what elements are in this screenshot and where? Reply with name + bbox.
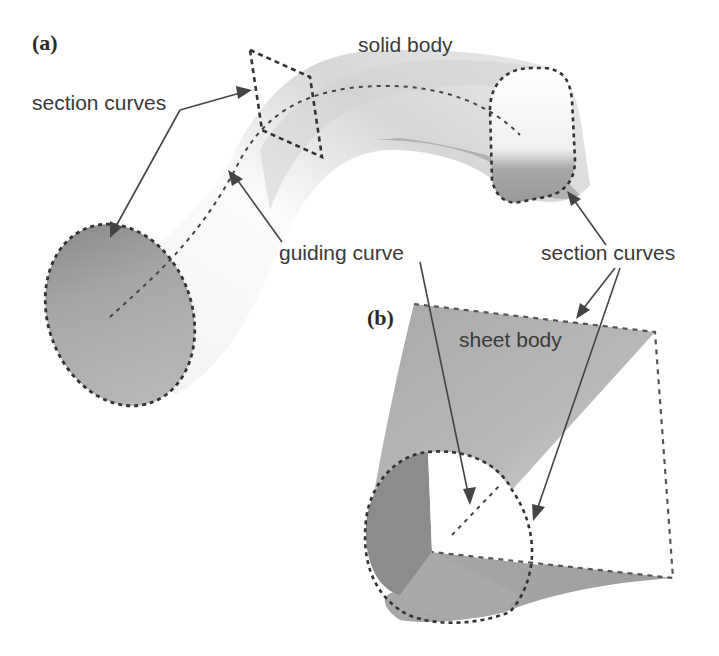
leader-section-curve-right [567, 191, 606, 245]
arrowhead-icon [532, 504, 545, 521]
panel-b: (b) sheet body [365, 262, 673, 623]
section-curves-label-left: section curves [32, 91, 166, 114]
solid-body-label: solid body [358, 33, 453, 56]
swept-body-diagram: (a) solid body section curves guiding cu… [0, 0, 719, 656]
section-curves-label-right: section curves [541, 241, 675, 264]
panel-label-a: (a) [32, 30, 58, 55]
arrowhead-icon [576, 303, 590, 319]
section-curve-rounded-square [490, 68, 575, 203]
sheet-body-label: sheet body [459, 328, 562, 351]
arrowhead-icon [236, 86, 252, 99]
panel-label-b: (b) [367, 305, 394, 330]
guiding-curve-label: guiding curve [279, 241, 404, 264]
